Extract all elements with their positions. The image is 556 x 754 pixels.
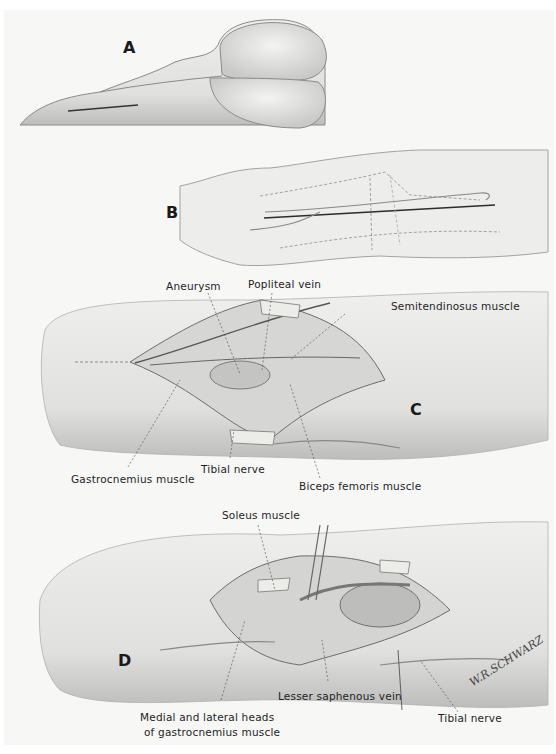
panel-b-drawing — [180, 150, 548, 266]
surgical-illustration — [0, 0, 556, 754]
label-medial-lateral-heads-line2: of gastrocnemius muscle — [144, 726, 280, 739]
label-tibial-nerve-d: Tibial nerve — [438, 712, 502, 725]
label-lesser-saphenous-vein: Lesser saphenous vein — [278, 690, 402, 703]
panel-label-a: A — [123, 38, 135, 57]
label-medial-lateral-heads-line1: Medial and lateral heads — [140, 711, 274, 724]
label-aneurysm: Aneurysm — [166, 280, 221, 293]
label-semitendinosus-muscle: Semitendinosus muscle — [391, 300, 520, 313]
panel-label-b: B — [166, 203, 178, 222]
panel-label-c: C — [410, 400, 422, 419]
label-gastrocnemius-muscle: Gastrocnemius muscle — [71, 473, 195, 486]
label-soleus-muscle: Soleus muscle — [222, 509, 300, 522]
label-tibial-nerve-c: Tibial nerve — [201, 463, 265, 476]
panel-label-d: D — [118, 651, 131, 670]
panel-c-drawing — [41, 292, 548, 478]
label-biceps-femoris-muscle: Biceps femoris muscle — [299, 480, 421, 493]
panel-a-drawing — [20, 20, 326, 128]
label-popliteal-vein: Popliteal vein — [248, 278, 321, 291]
